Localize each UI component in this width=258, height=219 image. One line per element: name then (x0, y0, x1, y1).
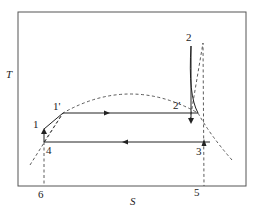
x-axis-label: S (130, 195, 136, 207)
process-1-1p (44, 113, 63, 129)
point-label-1: 1 (33, 118, 39, 130)
point-label-1p: 1' (53, 100, 61, 112)
point-label-4: 4 (46, 144, 52, 156)
plot-frame (18, 12, 246, 186)
ts-diagram: T S 1 1' 2 2' 3 4 5 6 (0, 0, 258, 219)
point-label-3: 3 (196, 145, 202, 157)
dashed-4-1p (44, 113, 63, 142)
point-label-2: 2 (186, 31, 192, 43)
y-axis-label: T (6, 68, 13, 80)
point-label-6: 6 (38, 188, 44, 200)
point-label-2p: 2' (173, 99, 181, 111)
point-label-5: 5 (194, 186, 200, 198)
arrow-left-icon (122, 140, 128, 145)
arrow-right-icon (104, 111, 110, 116)
dashed-line-5 (190, 43, 204, 186)
